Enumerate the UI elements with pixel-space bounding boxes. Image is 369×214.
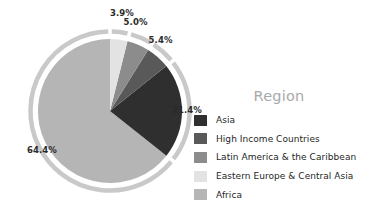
legend-item-label: Asia	[216, 115, 235, 125]
ring-arc	[112, 32, 128, 34]
legend-swatch-icon	[194, 152, 207, 163]
legend-item-asia[interactable]: Asia	[192, 111, 369, 130]
legend-title: Region	[204, 88, 354, 104]
slice-label-high-income: 5.4%	[149, 35, 173, 45]
legend-swatch-icon	[194, 115, 207, 126]
legend-item-africa[interactable]: Africa	[192, 185, 369, 204]
legend-swatch-icon	[194, 171, 207, 182]
legend-item-label: Africa	[216, 190, 242, 200]
legend-swatch-icon	[194, 133, 207, 144]
legend-swatch-icon	[194, 189, 207, 200]
legend-item-high-income-countries[interactable]: High Income Countries	[192, 130, 369, 149]
legend-item-latin-america-the-caribbean[interactable]: Latin America & the Caribbean	[192, 148, 369, 167]
legend-item-eastern-europe-central-asia[interactable]: Eastern Europe & Central Asia	[192, 167, 369, 186]
pie-chart: 64.4% 21.4% 5.4% 5.0% 3.9% Region AsiaHi…	[0, 0, 369, 214]
legend-items: AsiaHigh Income CountriesLatin America &…	[192, 111, 369, 204]
legend-item-label: Eastern Europe & Central Asia	[216, 171, 353, 181]
slice-label-eastern-europe: 3.9%	[110, 8, 134, 18]
legend-item-label: Latin America & the Caribbean	[216, 152, 356, 162]
legend-item-label: High Income Countries	[216, 134, 320, 144]
pie-slices	[38, 39, 182, 183]
slice-label-latin-america: 5.0%	[124, 17, 148, 27]
slice-label-africa: 64.4%	[27, 145, 57, 155]
legend: Region AsiaHigh Income CountriesLatin Am…	[192, 88, 369, 204]
